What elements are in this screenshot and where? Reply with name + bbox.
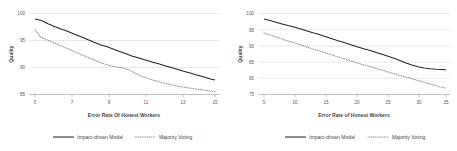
series-line-impact-driven-model [35,19,215,80]
y-tick-label: 90 [20,65,26,70]
x-tick-marks-left [35,95,215,98]
x-tick-label: 10 [292,100,298,105]
x-tick-label: 15 [212,100,218,105]
y-tick-label: 100 [17,11,25,16]
y-tick-labels-left: 100 95 90 85 [17,11,25,97]
series-line-majority-voting [264,33,446,88]
gridlines-left [29,14,220,95]
x-tick-label: 7 [71,100,74,105]
figure-container: 100 95 90 85 5 7 9 11 13 15 Error Rate O… [0,0,457,151]
right-chart-svg: 100 95 90 85 80 75 5 10 15 20 25 30 35 E… [228,0,457,151]
legend-label-majority-voting: Majority Voting [392,134,426,140]
x-axis-title: Error Rate Of Honest Workers [88,112,161,118]
y-tick-label: 95 [20,38,26,43]
x-tick-label: 11 [144,100,149,105]
y-tick-label: 90 [249,44,255,49]
x-tick-label: 9 [108,100,111,105]
chart-panel-right: 100 95 90 85 80 75 5 10 15 20 25 30 35 E… [228,0,457,151]
y-tick-label: 85 [249,60,255,65]
x-tick-labels-right: 5 10 15 20 25 30 35 [263,100,449,105]
legend-label-impact-driven-model: Impact-driven Model [77,134,123,140]
x-tick-label: 15 [323,100,329,105]
x-axis-title: Error Rate of Honest Workers [318,112,390,118]
y-axis-title: Quality [8,45,14,62]
x-tick-label: 30 [416,100,422,105]
y-tick-label: 95 [249,28,255,33]
y-tick-label: 75 [249,92,255,97]
x-tick-label: 5 [263,100,266,105]
legend-left: Impact-driven Model Majority Voting [53,134,193,140]
x-tick-marks-right [264,95,446,98]
x-tick-label: 25 [385,100,391,105]
left-chart-svg: 100 95 90 85 5 7 9 11 13 15 Error Rate O… [0,0,228,151]
y-axis-title: Quality [237,45,243,62]
legend-right: Impact-driven Model Majority Voting [285,134,426,140]
x-tick-label: 35 [443,100,449,105]
x-tick-label: 5 [34,100,37,105]
chart-panel-left: 100 95 90 85 5 7 9 11 13 15 Error Rate O… [0,0,228,151]
x-tick-labels-left: 5 7 9 11 13 15 [34,100,218,105]
x-tick-label: 20 [354,100,360,105]
y-tick-label: 85 [20,92,26,97]
y-tick-label: 80 [249,76,255,81]
y-tick-label: 100 [246,11,254,16]
legend-label-majority-voting: Majority Voting [159,134,193,140]
y-tick-labels-right: 100 95 90 85 80 75 [246,11,254,97]
series-line-majority-voting [35,30,215,92]
x-tick-label: 13 [180,100,186,105]
legend-label-impact-driven-model: Impact-driven Model [309,134,355,140]
